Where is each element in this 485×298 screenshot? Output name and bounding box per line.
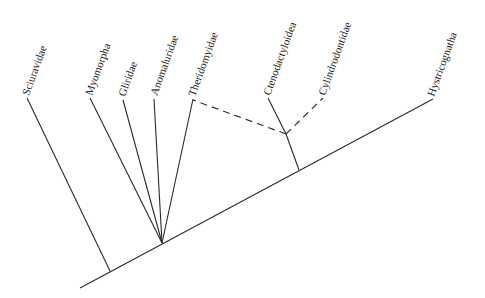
label-gliridae: Gliridae xyxy=(116,60,140,98)
branch-ctenodactyl-stem xyxy=(286,134,299,170)
label-cylindrodontidae: Cylindrodontidae xyxy=(316,20,354,97)
label-sciuravidae: Sciuravidae xyxy=(20,44,49,97)
backbone-branch xyxy=(80,99,433,288)
branch-anomaluridae xyxy=(154,99,162,243)
branch-myomorpha xyxy=(90,98,162,243)
branch-theridomyidae xyxy=(162,99,193,243)
label-theridomyidae: Theridomyidae xyxy=(186,30,220,97)
cladogram: Sciuravidae Myomorpha Gliridae Anomaluri… xyxy=(0,0,485,298)
label-myomorpha: Myomorpha xyxy=(83,41,113,96)
label-anomaluridae: Anomaluridae xyxy=(148,33,181,96)
label-ctenodactyloidea: Ctenodactyloidea xyxy=(261,20,299,97)
branch-gliridae xyxy=(123,100,162,243)
branch-sciuravidae xyxy=(27,98,110,271)
dashed-branch-cylindrodontidae xyxy=(286,98,323,134)
label-hystricognatha: Hystricognatha xyxy=(425,30,459,97)
